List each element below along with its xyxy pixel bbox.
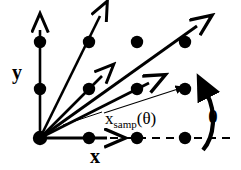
- dot-origin: [33, 131, 47, 145]
- x-samp-label: xsamp(θ): [105, 109, 156, 130]
- vector-sampling-diagram: y x θ xsamp(θ): [0, 0, 241, 170]
- x-samp-subscript: samp: [114, 118, 138, 130]
- dot-row1-col4: [179, 36, 191, 48]
- dot-row3-col4: [179, 132, 191, 144]
- dot-row1-col1: [34, 36, 46, 48]
- dot-row1-col2: [83, 36, 95, 48]
- dot-row2-col2: [83, 83, 95, 95]
- x-samp-argument: (θ): [137, 109, 156, 128]
- dot-row1-col3: [131, 36, 143, 48]
- x-axis-label: x: [90, 145, 100, 167]
- dot-row2-col4: [179, 83, 191, 95]
- dot-row2-col3: [131, 83, 143, 95]
- dot-row3-col3: [131, 132, 143, 144]
- dot-row3-col2: [83, 132, 95, 144]
- y-axis-label: y: [12, 61, 22, 84]
- figure-canvas: y x θ xsamp(θ): [0, 0, 241, 170]
- dot-row2-col1: [34, 83, 46, 95]
- vector-steep: [40, 16, 100, 138]
- svg-text:xsamp(θ): xsamp(θ): [105, 109, 156, 130]
- theta-label: θ: [208, 107, 217, 127]
